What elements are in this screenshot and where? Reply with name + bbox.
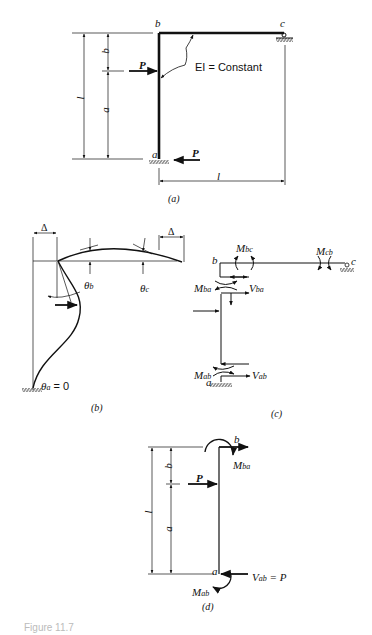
theta-a-label: θa = 0 <box>41 376 69 394</box>
moment-bc-label: Mbc <box>236 238 253 256</box>
fixed-support-b <box>22 388 42 392</box>
figure-caption: Figure 11.7 <box>24 622 74 633</box>
joint-b-label-c: b <box>212 254 218 266</box>
panel-c <box>193 256 354 387</box>
deflected-beam <box>58 249 182 262</box>
joint-a-label: a <box>152 148 158 160</box>
dim-b-label: b <box>99 48 111 54</box>
joint-a-label-d: a <box>212 565 218 577</box>
shear-ab-label: Vab <box>252 365 267 383</box>
ei-leader-arrow <box>185 35 193 65</box>
panel-b-caption: (b) <box>91 402 103 413</box>
joint-b-label: b <box>155 17 161 29</box>
fixed-support-c <box>210 383 232 387</box>
figure-canvas <box>0 0 372 635</box>
fixed-support-a <box>149 160 169 164</box>
joint-b-label-d: b <box>234 433 240 445</box>
panel-c-caption: (c) <box>271 408 282 419</box>
moment-ab-label-d: Mab <box>192 582 209 600</box>
moment-ba-label: Mba <box>194 278 211 296</box>
joint-c-label-c: c <box>351 255 356 267</box>
delta-left-label: Δ <box>41 222 47 233</box>
dim-b-label-d: b <box>162 463 174 469</box>
panel-d-caption: (d) <box>202 601 214 612</box>
stiffness-note: EI = Constant <box>195 61 262 73</box>
load-p-label-d: P <box>196 472 203 484</box>
shear-ba-label: Vba <box>249 278 264 296</box>
moment-cb-label: Mcb <box>316 241 333 259</box>
shear-ab-label-d: Vab = P <box>252 567 286 585</box>
delta-right-label: Δ <box>168 226 174 237</box>
theta-b-label: θb <box>84 275 93 293</box>
dim-a-label: a <box>99 107 111 113</box>
dim-l-label: l <box>74 96 86 99</box>
theta-c-label: θc <box>140 278 149 296</box>
dim-a-label-d: a <box>162 526 174 532</box>
joint-c-label: c <box>280 17 285 29</box>
panel-b <box>22 233 184 392</box>
moment-ba-label-d: Mba <box>233 455 250 473</box>
dim-l-label-d: l <box>142 510 154 513</box>
dim-span-label: l <box>217 170 220 182</box>
panel-a-caption: (a) <box>168 193 180 204</box>
load-p-bottom-label: P <box>192 147 199 159</box>
load-p-top-label: P <box>139 59 146 71</box>
moment-ab-label: Mab <box>194 365 211 383</box>
free-body-beam <box>220 263 345 277</box>
